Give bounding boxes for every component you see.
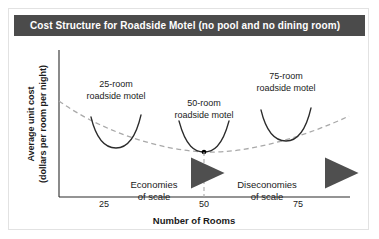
y-axis-label-line1: Average unit cost — [25, 49, 37, 199]
y-axis-label: Average unit cost (dollars per room per … — [25, 49, 49, 199]
annotation-50-room: 50-room roadside motel — [154, 98, 254, 121]
annotation-50-room-line1: 50-room — [154, 98, 254, 110]
short-run-curve-75 — [261, 108, 311, 141]
label-diseconomies-of-scale-line1: Diseconomies — [212, 179, 322, 191]
annotation-75-room-line1: 75-room — [236, 71, 336, 83]
annotation-25-room-line2: roadside motel — [66, 91, 166, 103]
annotation-25-room-line1: 25-room — [66, 79, 166, 91]
short-run-curve-25 — [91, 115, 141, 148]
annotation-50-room-line2: roadside motel — [154, 110, 254, 122]
annotation-75-room-line2: roadside motel — [236, 83, 336, 95]
label-diseconomies-of-scale: Diseconomies of scale — [212, 179, 322, 202]
label-diseconomies-of-scale-line2: of scale — [212, 191, 322, 203]
figure-container: Cost Structure for Roadside Motel (no po… — [8, 8, 369, 230]
short-run-curve-50 — [179, 121, 229, 152]
x-axis-label: Number of Rooms — [49, 215, 339, 226]
label-economies-of-scale: Economies of scale — [104, 179, 204, 202]
annotation-75-room: 75-room roadside motel — [236, 71, 336, 94]
label-economies-of-scale-line1: Economies — [104, 179, 204, 191]
label-economies-of-scale-line2: of scale — [104, 191, 204, 203]
plot-area: Average unit cost (dollars per room per … — [9, 9, 370, 231]
y-axis-label-line2: (dollars per room per night) — [37, 49, 49, 199]
annotation-25-room: 25-room roadside motel — [66, 79, 166, 102]
